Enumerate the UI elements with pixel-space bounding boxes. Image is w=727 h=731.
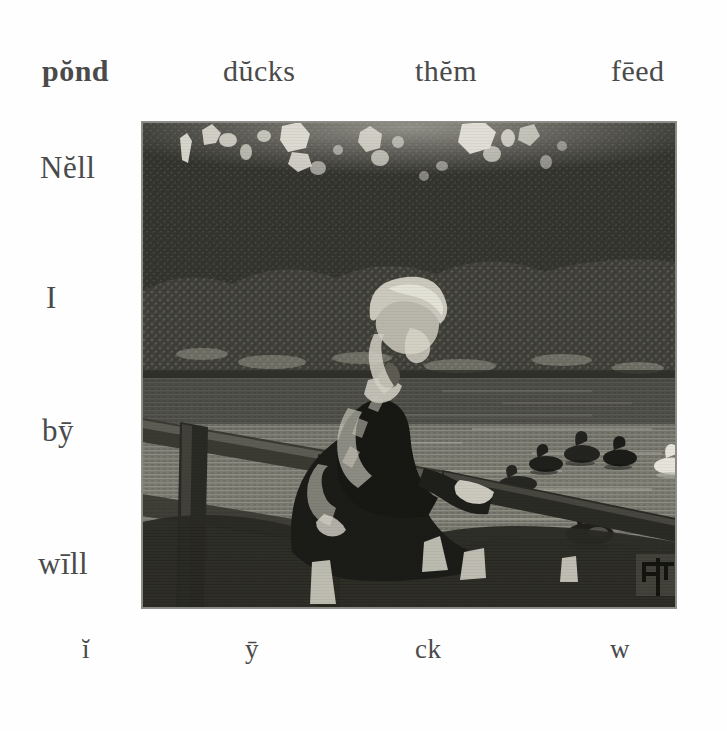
primer-page: pŏnd dŭcks thĕm fēed Nĕll I bȳ wīll ĭ ȳ … xyxy=(0,0,727,731)
phonics-element-short-i: ĭ xyxy=(82,636,90,663)
vocab-word-by: bȳ xyxy=(42,415,74,446)
phonics-element-ck: ck xyxy=(415,636,441,663)
engraving-grain xyxy=(142,122,676,608)
phonics-element-long-y: ȳ xyxy=(245,636,259,663)
vocab-word-pond: pŏnd xyxy=(42,56,109,86)
vocab-word-ducks: dŭcks xyxy=(223,56,296,86)
phonics-element-w: w xyxy=(610,636,630,663)
vocab-word-them: thĕm xyxy=(415,56,477,86)
vocab-word-nell: Nĕll xyxy=(40,152,95,183)
vocab-word-i: I xyxy=(46,282,57,313)
engraving-svg xyxy=(142,122,676,608)
illustration-girl-at-pond xyxy=(142,122,676,608)
vocab-word-will: wīll xyxy=(38,548,88,579)
vocab-word-feed: fēed xyxy=(611,56,665,86)
